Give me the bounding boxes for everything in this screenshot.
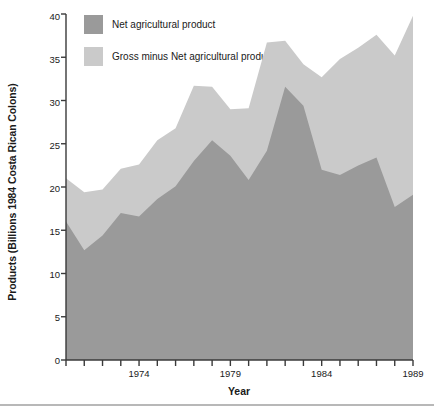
x-tick-marks bbox=[66, 360, 413, 366]
y-tick-marks bbox=[61, 14, 66, 360]
chart-plot-area bbox=[0, 0, 434, 414]
area-series-group bbox=[66, 16, 413, 360]
footer-divider bbox=[0, 404, 434, 406]
chart-figure: Products (Billions 1984 Costa Rican Colo… bbox=[0, 0, 434, 414]
